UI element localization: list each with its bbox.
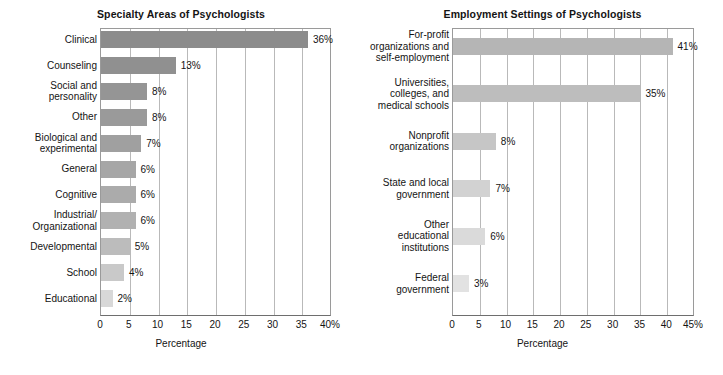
chart-specialty-areas: Specialty Areas of Psychologists 0510152…	[0, 0, 362, 375]
bar	[453, 228, 485, 245]
bar	[101, 238, 130, 255]
category-label: School	[0, 267, 97, 279]
category-label: Other	[0, 111, 97, 123]
chart-title-employment-settings: Employment Settings of Psychologists	[362, 8, 723, 20]
bar-value-label: 6%	[141, 186, 155, 203]
category-label: Other educational institutions	[329, 219, 449, 254]
bar	[453, 85, 640, 102]
gridline	[667, 29, 668, 315]
x-tick-label: 15	[181, 319, 192, 330]
x-tick-label: 10	[500, 319, 511, 330]
x-axis-title-specialty-areas: Percentage	[0, 338, 362, 349]
category-label: Cognitive	[0, 189, 97, 201]
gridline	[302, 29, 303, 315]
bar-value-label: 13%	[181, 57, 201, 74]
x-tick-label: 5	[126, 319, 132, 330]
gridline	[245, 29, 246, 315]
chart-figure: Specialty Areas of Psychologists 0510152…	[0, 0, 723, 375]
category-label: Biological and experimental	[0, 132, 97, 155]
category-label: Counseling	[0, 60, 97, 72]
bar-value-label: 8%	[152, 83, 166, 100]
x-axis-title-employment-settings: Percentage	[362, 338, 723, 349]
x-tick-label: 45%	[683, 319, 703, 330]
bar	[453, 38, 673, 55]
x-tick-label: 5	[476, 319, 482, 330]
gridline	[587, 29, 588, 315]
category-label: Nonprofit organizations	[329, 130, 449, 153]
bar-value-label: 7%	[146, 135, 160, 152]
gridline	[274, 29, 275, 315]
category-label: Social and personality	[0, 80, 97, 103]
category-label: For-profit organizations and self-employ…	[329, 29, 449, 64]
gridline	[560, 29, 561, 315]
bar	[453, 133, 496, 150]
category-label: Federal government	[329, 272, 449, 295]
bar	[101, 109, 147, 126]
x-tick-label: 20	[209, 319, 220, 330]
x-tick-label: 25	[580, 319, 591, 330]
category-label: Educational	[0, 293, 97, 305]
gridline	[533, 29, 534, 315]
gridline	[507, 29, 508, 315]
category-label: Clinical	[0, 34, 97, 46]
x-tick-label: 40%	[320, 319, 340, 330]
bar-value-label: 5%	[135, 238, 149, 255]
bar	[101, 83, 147, 100]
x-tick-label: 20	[554, 319, 565, 330]
x-tick-label: 30	[267, 319, 278, 330]
gridline	[216, 29, 217, 315]
bar	[101, 186, 136, 203]
bar	[101, 57, 176, 74]
bar-value-label: 6%	[141, 212, 155, 229]
gridline	[614, 29, 615, 315]
bar	[101, 264, 124, 281]
bar-value-label: 41%	[678, 38, 698, 55]
chart-employment-settings: Employment Settings of Psychologists 051…	[362, 0, 723, 375]
x-tick-label: 15	[527, 319, 538, 330]
bar-value-label: 8%	[152, 109, 166, 126]
x-tick-label: 30	[607, 319, 618, 330]
bar-value-label: 35%	[645, 85, 665, 102]
gridline	[480, 29, 481, 315]
chart-title-specialty-areas: Specialty Areas of Psychologists	[0, 8, 362, 20]
x-tick-label: 35	[634, 319, 645, 330]
x-tick-label: 0	[97, 319, 103, 330]
bar	[453, 180, 490, 197]
category-label: State and local government	[329, 177, 449, 200]
bar	[101, 290, 113, 307]
bar	[101, 31, 308, 48]
bar-value-label: 3%	[474, 275, 488, 292]
bar-value-label: 6%	[490, 228, 504, 245]
x-tick-label: 25	[238, 319, 249, 330]
gridline	[640, 29, 641, 315]
bar	[101, 212, 136, 229]
bar	[453, 275, 469, 292]
bar-value-label: 6%	[141, 161, 155, 178]
plot-area-employment-settings	[452, 28, 694, 316]
category-label: Developmental	[0, 241, 97, 253]
x-tick-label: 40	[661, 319, 672, 330]
bar	[101, 135, 141, 152]
category-label: General	[0, 163, 97, 175]
x-tick-label: 0	[449, 319, 455, 330]
bar-value-label: 8%	[501, 133, 515, 150]
category-label: Universities, colleges, and medical scho…	[329, 77, 449, 112]
x-tick-label: 35	[296, 319, 307, 330]
bar-value-label: 4%	[129, 264, 143, 281]
bar	[101, 161, 136, 178]
category-label: Industrial/ Organizational	[0, 209, 97, 232]
x-tick-label: 10	[152, 319, 163, 330]
bar-value-label: 7%	[495, 180, 509, 197]
bar-value-label: 2%	[118, 290, 132, 307]
